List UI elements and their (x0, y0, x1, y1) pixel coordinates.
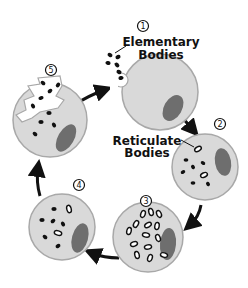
label-bodies-2: Bodies (124, 146, 169, 160)
cell-stage-2: 2 Reticulate Bodies (113, 119, 238, 201)
label-elementary: Elementary (122, 35, 199, 49)
chlamydia-cycle-diagram: 1 Elementary Bodies 2 Reticulate Bodies (0, 0, 248, 288)
arrow-4-to-5 (37, 168, 40, 196)
cell-stage-5: 5 (13, 65, 87, 158)
stage-number-1: 1 (140, 22, 145, 31)
stage-number-3: 3 (143, 197, 148, 206)
stage-number-4: 4 (76, 181, 81, 190)
cell-stage-3: 3 (113, 196, 183, 273)
stage-number-5: 5 (48, 66, 53, 75)
label-bodies-1: Bodies (138, 48, 183, 62)
stage-number-2: 2 (217, 120, 222, 129)
arrow-2-to-3 (190, 205, 201, 225)
cell-stage-1: 1 Elementary Bodies (105, 21, 200, 131)
arrow-3-to-4 (92, 253, 119, 258)
